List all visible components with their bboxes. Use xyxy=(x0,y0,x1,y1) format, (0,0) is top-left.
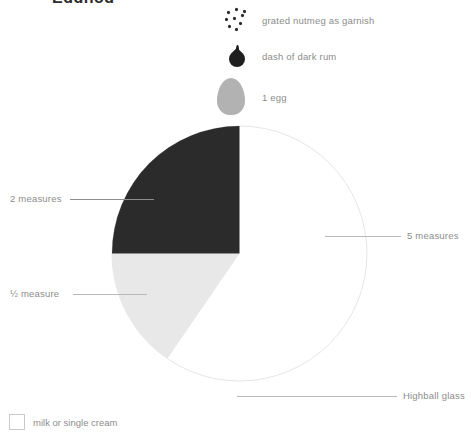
rum-drop-icon xyxy=(229,45,246,69)
ingredient-row-egg: 1 egg xyxy=(262,92,287,103)
legend: milk or single cream xyxy=(9,414,117,430)
page-title-text: Eggnog xyxy=(0,0,471,3)
callout-half-measure: ½ measure xyxy=(10,288,59,299)
callout-five-measures: 5 measures xyxy=(407,230,459,241)
legend-label-milk: milk or single cream xyxy=(33,417,117,428)
pie-slice-two-measures xyxy=(112,126,240,254)
callout-two-measures: 2 measures xyxy=(10,193,62,204)
legend-swatch-milk xyxy=(9,414,25,430)
ingredient-row-nutmeg: grated nutmeg as garnish xyxy=(262,15,375,26)
callout-highball-glass: Highball glass xyxy=(403,390,465,401)
leader-line-two-measures xyxy=(70,199,154,200)
ingredient-label-nutmeg: grated nutmeg as garnish xyxy=(262,15,375,26)
leader-line-highball-glass xyxy=(237,396,397,397)
ingredient-row-rum: dash of dark rum xyxy=(262,51,336,62)
leader-line-half-measure xyxy=(73,294,147,295)
infographic-canvas: Eggnog grated nutmeg as garnish dash of … xyxy=(0,0,471,434)
recipe-pie-chart xyxy=(111,125,368,382)
ingredient-label-rum: dash of dark rum xyxy=(262,51,336,62)
leader-line-five-measures xyxy=(325,236,401,237)
egg-icon xyxy=(217,78,245,115)
ingredient-label-egg: 1 egg xyxy=(262,92,287,103)
page-title: Eggnog xyxy=(0,0,471,3)
nutmeg-scatter-icon xyxy=(225,8,251,34)
